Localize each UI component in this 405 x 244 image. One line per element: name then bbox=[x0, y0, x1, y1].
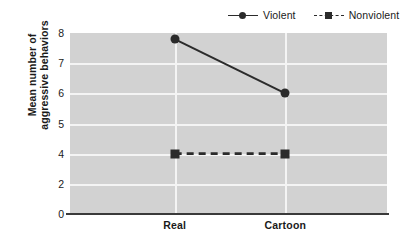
x-tick-label: Real bbox=[125, 219, 225, 231]
y-tick-label: 6 bbox=[4, 87, 64, 99]
gridline-horizontal bbox=[70, 63, 387, 65]
gridline-horizontal bbox=[70, 184, 387, 186]
gridline-vertical bbox=[175, 33, 177, 214]
y-tick-label: 8 bbox=[4, 27, 64, 39]
y-tick-label: 2 bbox=[4, 178, 64, 190]
y-tick-label: 7 bbox=[4, 57, 64, 69]
gridline-horizontal bbox=[70, 154, 387, 156]
y-tick-label: 5 bbox=[4, 118, 64, 130]
y-axis-tick-labels: 8765420 bbox=[0, 0, 64, 244]
gridline-horizontal bbox=[70, 124, 387, 126]
x-tick-label: Cartoon bbox=[235, 219, 335, 231]
plot-area bbox=[70, 33, 387, 214]
gridline-horizontal bbox=[70, 93, 387, 95]
gridline-vertical bbox=[285, 33, 287, 214]
y-tick-label: 0 bbox=[4, 208, 64, 220]
chart-plot-wrapper: 8765420 RealCartoon bbox=[0, 0, 405, 244]
y-tick-label: 4 bbox=[4, 148, 64, 160]
x-axis-line bbox=[66, 213, 389, 215]
